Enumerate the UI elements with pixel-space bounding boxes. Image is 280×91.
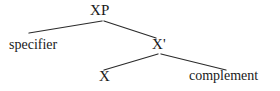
node-label-complement: complement — [189, 69, 258, 83]
node-label-head-x: X — [99, 69, 110, 84]
node-label-specifier: specifier — [9, 38, 57, 52]
branch-xbar-to-head — [104, 54, 158, 70]
branch-xp-to-xbar — [104, 21, 156, 38]
node-label-x-bar: X' — [152, 37, 166, 52]
branch-xp-to-specifier — [29, 21, 102, 33]
syntax-tree-diagram: XP specifier X' X complement — [0, 0, 280, 91]
node-label-xp: XP — [90, 3, 110, 18]
